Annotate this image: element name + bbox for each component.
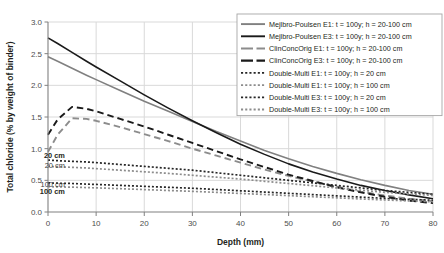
legend-label-3: ClinConcOrig E3: t = 100y; h = 20-100 cm bbox=[269, 56, 402, 65]
x-tick-label: 0 bbox=[46, 219, 51, 228]
legend-label-4: Double-Multi E1: t = 100y; h = 20 cm bbox=[269, 69, 386, 78]
y-tick-label: 1.5 bbox=[31, 113, 43, 122]
x-tick-label: 20 bbox=[140, 219, 149, 228]
x-tick-label: 80 bbox=[429, 219, 438, 228]
x-tick-label: 40 bbox=[236, 219, 245, 228]
x-tick-label: 70 bbox=[380, 219, 389, 228]
y-tick-label: 3.0 bbox=[31, 18, 43, 27]
legend-label-5: Double-Multi E1: t = 100y; h = 100 cm bbox=[269, 81, 390, 90]
y-axis-title: Total chloride (% by weight of binder) bbox=[5, 41, 15, 192]
x-tick-label: 10 bbox=[92, 219, 101, 228]
x-tick-label: 50 bbox=[284, 219, 293, 228]
legend-label-6: Double-Multi E3: t = 100y; h = 20 cm bbox=[269, 93, 386, 102]
x-tick-label: 60 bbox=[332, 219, 341, 228]
plot-annotation-1: 20 cm bbox=[45, 161, 65, 170]
legend-label-7: Double-Multi E3: t = 100y; h = 100 cm bbox=[269, 105, 390, 114]
x-axis-title: Depth (mm) bbox=[217, 237, 264, 247]
legend-label-1: Mejlbro-Poulsen E3: t = 100y; h = 20-100… bbox=[269, 32, 412, 41]
y-tick-label: 0.0 bbox=[31, 208, 43, 217]
y-tick-label: 2.0 bbox=[31, 81, 43, 90]
plot-annotation-0: 20 cm bbox=[44, 151, 65, 160]
legend-label-0: Mejlbro-Poulsen E1: t = 100y; h = 20-100… bbox=[269, 20, 412, 29]
legend-label-2: ClinConcOrig E1: t = 100y; h = 20-100 cm bbox=[269, 44, 402, 53]
chloride-profile-chart: 0.00.51.01.52.02.53.001020304050607080De… bbox=[0, 0, 444, 253]
y-tick-label: 2.5 bbox=[31, 50, 43, 59]
x-tick-label: 30 bbox=[188, 219, 197, 228]
y-tick-label: 1.0 bbox=[31, 145, 43, 154]
plot-annotation-3: 100 cm bbox=[40, 187, 65, 196]
chart-canvas: 0.00.51.01.52.02.53.001020304050607080De… bbox=[0, 0, 444, 253]
